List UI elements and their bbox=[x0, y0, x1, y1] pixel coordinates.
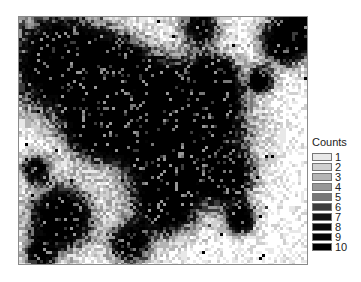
legend-swatch bbox=[312, 163, 332, 171]
legend-swatch bbox=[312, 173, 332, 181]
legend-swatch bbox=[312, 193, 332, 201]
legend-item: 10 bbox=[312, 242, 361, 252]
legend-swatch bbox=[312, 233, 332, 241]
hexbin-density-canvas bbox=[19, 17, 308, 265]
counts-legend: Counts 1 2 3 4 5 6 7 8 9 10 bbox=[312, 136, 361, 252]
legend-swatch bbox=[312, 223, 332, 231]
legend-rows: 1 2 3 4 5 6 7 8 9 10 bbox=[312, 152, 361, 252]
legend-swatch bbox=[312, 203, 332, 211]
legend-swatch bbox=[312, 243, 332, 251]
legend-title: Counts bbox=[312, 136, 361, 149]
legend-swatch bbox=[312, 213, 332, 221]
heatmap-plot-area bbox=[18, 16, 308, 265]
legend-swatch bbox=[312, 153, 332, 161]
legend-swatch bbox=[312, 183, 332, 191]
legend-label: 10 bbox=[335, 242, 347, 252]
